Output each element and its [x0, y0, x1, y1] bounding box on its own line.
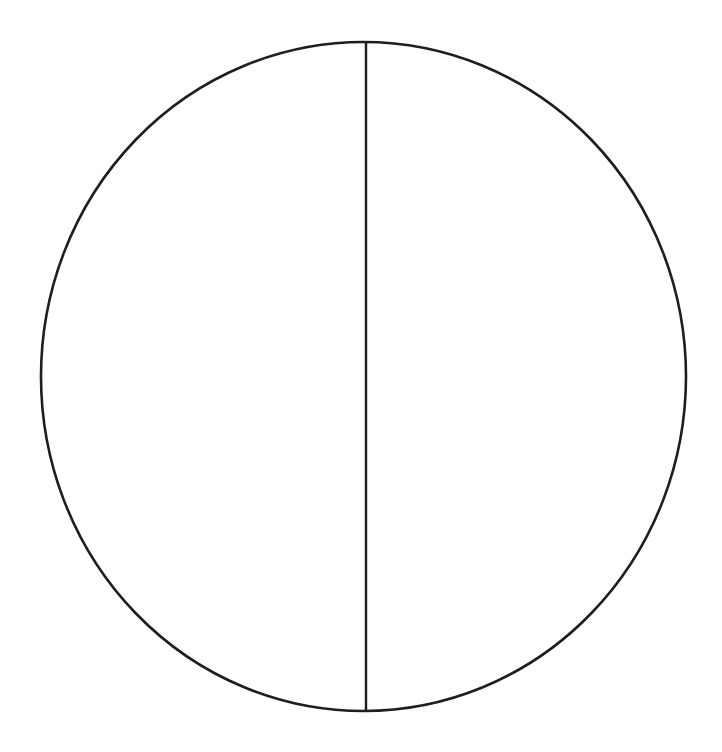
divided-circle-diagram [0, 0, 722, 752]
